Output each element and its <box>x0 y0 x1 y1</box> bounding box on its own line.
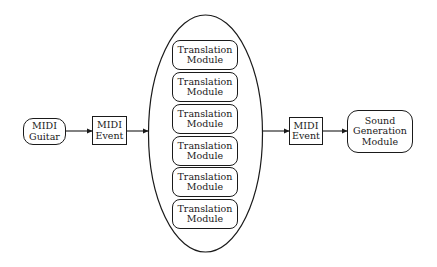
midi-event-input-node: MIDI Event <box>92 116 127 145</box>
node-label-line: Event <box>96 131 124 142</box>
translation-module-5: Translation Module <box>172 167 238 197</box>
translation-module-2: Translation Module <box>172 72 238 102</box>
node-label-line: Event <box>292 131 320 142</box>
node-label-line: Module <box>187 182 223 193</box>
translation-module-4: Translation Module <box>172 136 238 166</box>
node-label-line: Module <box>187 87 223 98</box>
node-label-line: Module <box>187 55 223 66</box>
node-label-line: Guitar <box>29 132 60 143</box>
translation-module-3: Translation Module <box>172 104 238 134</box>
translation-module-1: Translation Module <box>172 40 238 70</box>
node-label-line: Module <box>362 137 398 148</box>
node-label-line: Module <box>187 119 223 130</box>
midi-guitar-node: MIDI Guitar <box>23 118 66 145</box>
sound-generation-node: Sound Generation Module <box>347 110 413 153</box>
node-label-line: Module <box>187 151 223 162</box>
node-label-line: MIDI <box>97 120 122 131</box>
translation-module-6: Translation Module <box>172 199 238 229</box>
midi-event-output-node: MIDI Event <box>289 117 323 145</box>
node-label-line: Module <box>187 214 223 225</box>
node-label-line: MIDI <box>32 121 57 132</box>
